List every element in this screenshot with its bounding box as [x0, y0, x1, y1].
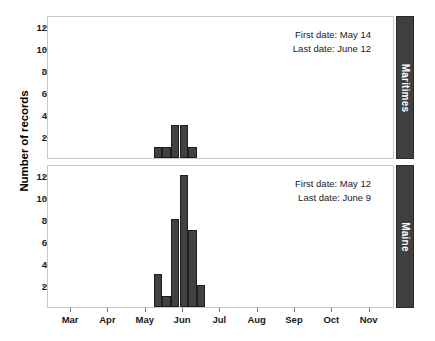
bar	[180, 125, 188, 158]
strip-text-maritimes: Maritimes	[400, 63, 411, 112]
bar	[154, 274, 162, 307]
y-tick-label: 12	[13, 171, 47, 182]
y-tick-label: 2	[13, 132, 47, 143]
x-tick-mark	[219, 308, 220, 312]
annotation-last-date-maine: Last date: June 9	[298, 192, 371, 203]
bar	[180, 175, 188, 307]
annotation-last-date-maritimes: Last date: June 12	[293, 43, 371, 54]
x-tick-mark	[369, 308, 370, 312]
bar	[162, 296, 170, 307]
y-tick-label: 10	[13, 193, 47, 204]
x-tick-label: Oct	[311, 314, 351, 325]
y-axis-top: 24681012	[7, 16, 47, 159]
x-tick-mark	[182, 308, 183, 312]
bar	[171, 219, 179, 307]
x-tick-label: Sep	[274, 314, 314, 325]
chart-figure: Number of records 24681012 24681012 Firs…	[0, 0, 435, 341]
x-tick-mark	[145, 308, 146, 312]
x-tick-label: Mar	[50, 314, 90, 325]
x-tick-label: Aug	[237, 314, 277, 325]
x-tick-label: Nov	[349, 314, 389, 325]
y-tick-label: 12	[13, 22, 47, 33]
y-tick-label: 8	[13, 215, 47, 226]
x-tick-label: Apr	[87, 314, 127, 325]
strip-label-maine: Maine	[396, 165, 414, 308]
bar	[154, 147, 162, 158]
y-tick-label: 4	[13, 110, 47, 121]
x-tick-label: May	[125, 314, 165, 325]
x-tick-label: Jul	[199, 314, 239, 325]
y-tick-label: 6	[13, 237, 47, 248]
x-tick-mark	[257, 308, 258, 312]
panel-maritimes: First date: May 14 Last date: June 12	[47, 16, 394, 159]
y-tick-label: 8	[13, 66, 47, 77]
annotation-first-date-maine: First date: May 12	[295, 178, 371, 189]
x-tick-mark	[294, 308, 295, 312]
bar	[162, 147, 170, 158]
bar	[188, 230, 196, 307]
strip-label-maritimes: Maritimes	[396, 16, 414, 159]
x-axis: MarAprMayJunJulAugSepOctNov	[47, 308, 394, 338]
x-tick-mark	[107, 308, 108, 312]
strip-text-maine: Maine	[400, 222, 411, 251]
y-tick-label: 10	[13, 44, 47, 55]
x-tick-mark	[331, 308, 332, 312]
y-tick-label: 6	[13, 88, 47, 99]
panel-maine: First date: May 12 Last date: June 9	[47, 165, 394, 308]
bar	[171, 125, 179, 158]
y-tick-label: 4	[13, 259, 47, 270]
y-axis-bottom: 24681012	[7, 165, 47, 308]
bar	[197, 285, 205, 307]
x-tick-mark	[70, 308, 71, 312]
x-tick-label: Jun	[162, 314, 202, 325]
bar	[188, 147, 196, 158]
annotation-first-date-maritimes: First date: May 14	[295, 29, 371, 40]
y-tick-label: 2	[13, 281, 47, 292]
